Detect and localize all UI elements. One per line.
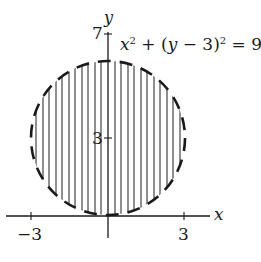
- eq-end: = 9: [226, 34, 261, 54]
- tick-label-x-pos3: 3: [178, 226, 189, 243]
- eq-x: x: [120, 34, 130, 54]
- eq-mid: + (: [136, 34, 168, 54]
- y-axis-label: y: [104, 10, 113, 26]
- x-axis-label: x: [214, 206, 224, 223]
- circle-equation: x2 + (y − 3)2 = 9: [120, 36, 261, 53]
- eq-y: y: [168, 34, 178, 54]
- tick-label-y-7: 7: [92, 25, 103, 42]
- tick-label-y-3: 3: [92, 130, 103, 147]
- tick-label-x-neg3: −3: [17, 226, 42, 243]
- eq-rest: − 3): [177, 34, 220, 54]
